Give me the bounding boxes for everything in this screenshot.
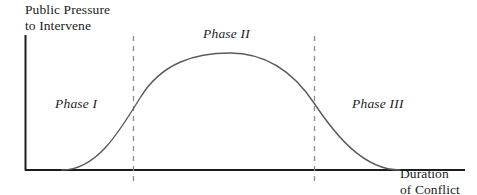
phase-1-label: Phase I	[55, 96, 97, 112]
x-axis-label: Duration of Conflict	[400, 166, 460, 195]
pressure-curve	[62, 53, 400, 170]
phase-3-label: Phase III	[352, 96, 404, 112]
chart-figure: Public Pressure to Intervene Duration of…	[0, 0, 477, 195]
phase-2-label: Phase II	[203, 26, 250, 42]
y-axis-label: Public Pressure to Intervene	[25, 2, 110, 34]
